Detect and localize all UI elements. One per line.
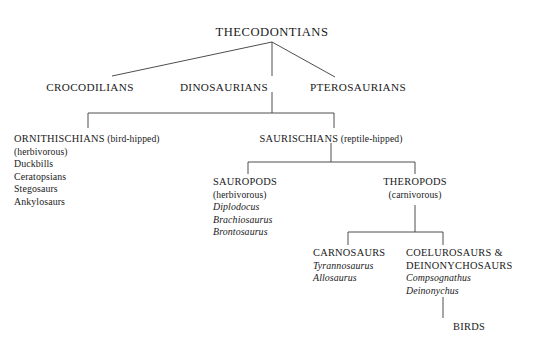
node-sauropods-genus: Brontosaurus [213, 226, 277, 239]
node-birds: BIRDS [453, 321, 485, 334]
node-ornithischians-member: Ankylosaurs [14, 196, 160, 209]
line-thecodontians-to-crocodilians [112, 42, 272, 76]
node-thecodontians: THECODONTIANS [216, 26, 329, 39]
node-sauropods-genus: Diplodocus [213, 201, 277, 214]
node-ornithischians-member: Duckbills [14, 158, 160, 171]
node-sauropods-diet: (herbivorous) [213, 189, 277, 202]
node-saurischians-heading-caps: SAURISCHIANS [260, 133, 339, 144]
node-ornithischians-heading: ORNITHISCHIANS (bird-hipped) [14, 131, 160, 146]
node-carnosaurs-genus: Tyrannosaurus [313, 260, 385, 273]
node-birds-label: BIRDS [453, 321, 485, 332]
node-dinosaurians: DINOSAURIANS [180, 81, 268, 94]
node-theropods: THEROPODS (carnivorous) [383, 176, 446, 201]
node-ornithischians: ORNITHISCHIANS (bird-hipped) (herbivorou… [14, 131, 160, 209]
node-coelurosaurs-heading-line1: COELUROSAURS & [406, 247, 513, 260]
node-crocodilians: CROCODILIANS [46, 81, 134, 94]
node-ornithischians-member: Stegosaurs [14, 183, 160, 196]
node-dinosaurians-label: DINOSAURIANS [180, 81, 268, 93]
node-carnosaurs: CARNOSAURS Tyrannosaurus Allosaurus [313, 247, 385, 285]
node-coelurosaurs-heading-line2: DEINONYCHOSAURS [406, 260, 513, 273]
node-sauropods-genus: Brachiosaurus [213, 214, 277, 227]
node-ornithischians-heading-note: (bird-hipped) [107, 133, 159, 144]
node-coelurosaurs-genus: Compsognathus [406, 272, 513, 285]
node-theropods-diet: (carnivorous) [383, 189, 446, 202]
cladogram-diagram: THECODONTIANS CROCODILIANS DINOSAURIANS … [0, 0, 539, 340]
node-ornithischians-member: Ceratopsians [14, 171, 160, 184]
line-thecodontians-to-pterosaurians [272, 42, 335, 77]
node-saurischians-heading-note: (reptile-hipped) [341, 133, 403, 144]
node-theropods-heading: THEROPODS [383, 176, 446, 189]
node-sauropods-heading: SAUROPODS [213, 176, 277, 189]
node-ornithischians-heading-caps: ORNITHISCHIANS [14, 133, 105, 144]
node-carnosaurs-heading: CARNOSAURS [313, 247, 385, 260]
node-ornithischians-diet: (herbivorous) [14, 146, 160, 159]
node-pterosaurians: PTEROSAURIANS [310, 81, 406, 94]
node-carnosaurs-genus: Allosaurus [313, 272, 385, 285]
node-coelurosaurs-genus: Deinonychus [406, 285, 513, 298]
node-coelurosaurs-deinonychosaurs: COELUROSAURS & DEINONYCHOSAURS Compsogna… [406, 247, 513, 297]
node-saurischians: SAURISCHIANS (reptile-hipped) [260, 131, 403, 146]
node-pterosaurians-label: PTEROSAURIANS [310, 81, 406, 93]
node-crocodilians-label: CROCODILIANS [46, 81, 134, 93]
node-sauropods: SAUROPODS (herbivorous) Diplodocus Brach… [213, 176, 277, 239]
node-thecodontians-label: THECODONTIANS [216, 25, 329, 39]
